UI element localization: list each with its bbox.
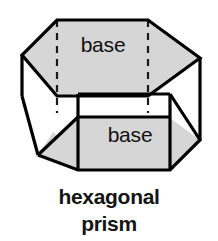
figure-caption: hexagonal prism	[0, 183, 218, 237]
caption-line-2: prism	[0, 210, 218, 237]
hexagonal-prism-svg: base base	[0, 0, 218, 182]
caption-line-1: hexagonal	[0, 183, 218, 210]
top-base-label: base	[81, 33, 126, 56]
bottom-base-label: base	[108, 123, 153, 146]
hexagonal-prism-figure-page: base base hexagonal prism	[0, 0, 218, 241]
